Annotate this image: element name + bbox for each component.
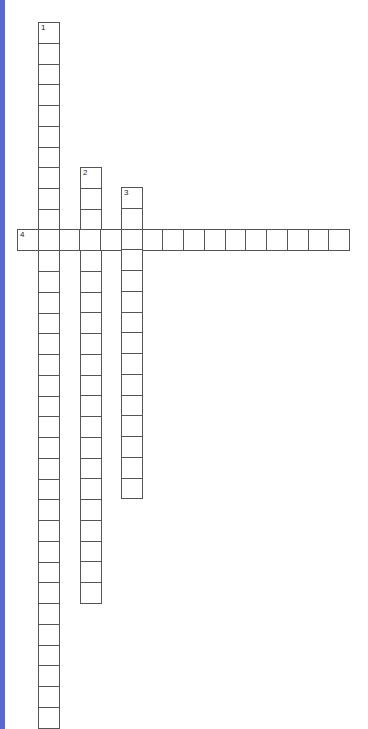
crossword-cell[interactable] (121, 457, 143, 479)
crossword-cell[interactable] (80, 209, 102, 231)
crossword-cell[interactable] (38, 437, 60, 459)
crossword-cell[interactable] (142, 229, 164, 251)
crossword-grid: 1234 (0, 0, 368, 729)
crossword-cell[interactable] (38, 396, 60, 418)
crossword-cell[interactable] (38, 375, 60, 397)
crossword-cell[interactable] (38, 43, 60, 65)
crossword-cell[interactable] (121, 332, 143, 354)
crossword-cell[interactable] (121, 436, 143, 458)
crossword-cell[interactable] (80, 561, 102, 583)
crossword-cell[interactable] (38, 582, 60, 604)
crossword-cell[interactable] (38, 84, 60, 106)
crossword-cell[interactable] (162, 229, 184, 251)
crossword-cell[interactable] (183, 229, 205, 251)
crossword-cell[interactable] (38, 479, 60, 501)
crossword-cell[interactable] (38, 499, 60, 521)
crossword-cell[interactable]: 3 (121, 187, 143, 209)
crossword-cell[interactable] (100, 229, 122, 251)
crossword-cell[interactable] (38, 707, 60, 729)
crossword-cell[interactable] (38, 686, 60, 708)
crossword-cell[interactable] (38, 541, 60, 563)
crossword-cell[interactable] (328, 229, 350, 251)
crossword-cell[interactable] (121, 208, 143, 230)
crossword-cell[interactable] (80, 250, 102, 272)
crossword-cell[interactable] (121, 229, 143, 251)
crossword-cell[interactable] (80, 541, 102, 563)
crossword-cell[interactable] (38, 64, 60, 86)
crossword-cell[interactable] (38, 665, 60, 687)
crossword-cell[interactable] (80, 520, 102, 542)
crossword-cell[interactable]: 1 (38, 22, 60, 44)
crossword-cell[interactable] (287, 229, 309, 251)
crossword-cell[interactable] (80, 582, 102, 604)
crossword-cell[interactable] (121, 270, 143, 292)
crossword-cell[interactable] (80, 188, 102, 210)
crossword-cell[interactable] (38, 333, 60, 355)
crossword-cell[interactable] (38, 105, 60, 127)
crossword-cell[interactable] (121, 374, 143, 396)
crossword-cell[interactable] (80, 312, 102, 334)
crossword-cell[interactable] (80, 271, 102, 293)
crossword-cell[interactable]: 2 (80, 167, 102, 189)
crossword-cell[interactable] (80, 416, 102, 438)
crossword-cell[interactable] (38, 313, 60, 335)
crossword-cell[interactable] (59, 229, 81, 251)
crossword-cell[interactable] (121, 312, 143, 334)
crossword-cell[interactable] (266, 229, 288, 251)
crossword-cell[interactable] (38, 354, 60, 376)
crossword-cell[interactable] (121, 249, 143, 271)
clue-number: 2 (83, 168, 87, 177)
crossword-cell[interactable] (38, 458, 60, 480)
crossword-cell[interactable] (80, 375, 102, 397)
crossword-cell[interactable] (80, 333, 102, 355)
crossword-cell[interactable] (121, 395, 143, 417)
clue-number: 3 (124, 188, 128, 197)
crossword-cell[interactable] (38, 188, 60, 210)
crossword-cell[interactable] (80, 292, 102, 314)
clue-number: 4 (20, 230, 24, 239)
crossword-cell[interactable] (308, 229, 330, 251)
crossword-cell[interactable] (225, 229, 247, 251)
crossword-cell[interactable] (121, 291, 143, 313)
crossword-cell[interactable] (38, 416, 60, 438)
crossword-cell[interactable] (80, 354, 102, 376)
crossword-cell[interactable] (38, 645, 60, 667)
crossword-cell[interactable] (245, 229, 267, 251)
crossword-cell[interactable] (38, 147, 60, 169)
crossword-cell[interactable] (38, 520, 60, 542)
crossword-cell[interactable] (121, 478, 143, 500)
crossword-cell[interactable] (80, 437, 102, 459)
clue-number: 1 (41, 23, 45, 32)
crossword-cell[interactable] (80, 395, 102, 417)
crossword-cell[interactable]: 4 (17, 229, 39, 251)
crossword-cell[interactable] (204, 229, 226, 251)
crossword-cell[interactable] (38, 126, 60, 148)
crossword-cell[interactable] (38, 292, 60, 314)
crossword-cell[interactable] (38, 209, 60, 231)
crossword-cell[interactable] (80, 499, 102, 521)
crossword-cell[interactable] (38, 603, 60, 625)
crossword-cell[interactable] (38, 229, 60, 251)
crossword-cell[interactable] (80, 458, 102, 480)
crossword-cell[interactable] (38, 562, 60, 584)
crossword-cell[interactable] (121, 415, 143, 437)
crossword-cell[interactable] (121, 353, 143, 375)
crossword-cell[interactable] (38, 271, 60, 293)
crossword-cell[interactable] (79, 229, 101, 251)
crossword-cell[interactable] (80, 478, 102, 500)
crossword-cell[interactable] (38, 624, 60, 646)
crossword-cell[interactable] (38, 250, 60, 272)
crossword-cell[interactable] (38, 167, 60, 189)
